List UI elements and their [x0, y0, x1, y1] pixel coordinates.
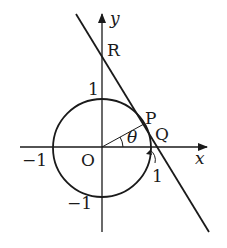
x-tick-neg-label: −1 [22, 150, 47, 170]
origin-label: O [81, 150, 95, 170]
unit-circle-diagram: y R 1 P Q θ −1 O x 1 −1 [0, 0, 227, 248]
arc-length-label: 1 [152, 166, 163, 186]
point-r-label: R [107, 40, 121, 60]
x-axis-label: x [195, 148, 205, 168]
y-tick-pos-label: 1 [88, 79, 99, 99]
y-tick-neg-label: −1 [67, 193, 92, 213]
angle-theta-label: θ [127, 127, 137, 147]
angle-theta-arc [120, 137, 123, 147]
point-q-label: Q [155, 124, 169, 144]
y-axis-label: y [109, 8, 120, 28]
tangent-line [76, 14, 209, 232]
